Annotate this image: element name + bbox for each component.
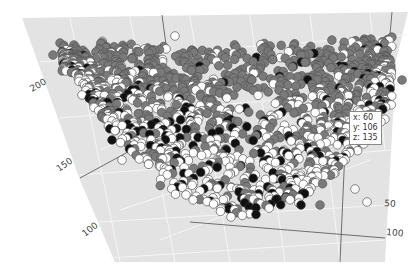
axis-tick-label: 150: [54, 155, 74, 173]
data-point[interactable]: [230, 55, 239, 64]
data-point[interactable]: [269, 175, 278, 184]
data-point[interactable]: [233, 83, 242, 92]
tooltip-z: z: 135: [353, 133, 378, 143]
data-point[interactable]: [176, 116, 185, 125]
data-point[interactable]: [209, 200, 218, 209]
axis-tick-label: 50: [384, 198, 397, 209]
data-point[interactable]: [328, 36, 337, 45]
data-point[interactable]: [189, 196, 198, 205]
data-point[interactable]: [171, 190, 180, 199]
data-point[interactable]: [363, 198, 372, 207]
tooltip-y: y: 106: [353, 123, 378, 133]
data-point[interactable]: [271, 99, 280, 108]
data-point[interactable]: [164, 93, 173, 102]
data-point[interactable]: [116, 138, 125, 147]
data-point[interactable]: [318, 180, 327, 189]
data-point[interactable]: [301, 58, 310, 67]
data-point[interactable]: [351, 185, 360, 194]
tooltip-x: x: 60: [353, 113, 378, 123]
data-point[interactable]: [155, 87, 164, 96]
data-point[interactable]: [235, 105, 244, 114]
data-point[interactable]: [398, 76, 407, 85]
data-point[interactable]: [223, 61, 232, 70]
data-point[interactable]: [254, 91, 263, 100]
data-point[interactable]: [219, 195, 228, 204]
data-point[interactable]: [316, 201, 325, 210]
data-point[interactable]: [287, 137, 296, 146]
data-point[interactable]: [156, 181, 165, 190]
data-point[interactable]: [252, 210, 261, 219]
data-point[interactable]: [271, 158, 280, 167]
data-point[interactable]: [144, 160, 153, 169]
data-point[interactable]: [297, 201, 306, 210]
data-point[interactable]: [133, 99, 142, 108]
data-point[interactable]: [333, 141, 342, 150]
data-point[interactable]: [182, 125, 191, 134]
data-point[interactable]: [118, 156, 127, 165]
data-point[interactable]: [337, 53, 346, 62]
data-point[interactable]: [213, 163, 222, 172]
data-point[interactable]: [196, 168, 205, 177]
data-point[interactable]: [290, 109, 299, 118]
data-point[interactable]: [227, 213, 236, 222]
axis-tick-label: 100: [80, 220, 100, 239]
data-point[interactable]: [249, 149, 258, 158]
hover-tooltip: x: 60 y: 106 z: 135: [349, 111, 382, 145]
data-point[interactable]: [215, 62, 224, 71]
data-point[interactable]: [216, 207, 225, 216]
data-point[interactable]: [244, 108, 253, 117]
data-point[interactable]: [135, 155, 144, 164]
data-point[interactable]: [238, 130, 247, 139]
data-point[interactable]: [284, 151, 293, 160]
data-point[interactable]: [223, 94, 232, 103]
data-point[interactable]: [264, 88, 273, 97]
data-point[interactable]: [288, 63, 297, 72]
axis-tick-label: 100: [386, 227, 404, 238]
data-point[interactable]: [171, 32, 180, 41]
data-point[interactable]: [319, 157, 328, 166]
data-point[interactable]: [197, 151, 206, 160]
data-point[interactable]: [265, 204, 274, 213]
data-point[interactable]: [187, 66, 196, 75]
data-point[interactable]: [49, 51, 58, 60]
data-point[interactable]: [268, 55, 277, 64]
data-point[interactable]: [277, 41, 286, 50]
data-point[interactable]: [108, 136, 117, 145]
data-point[interactable]: [213, 184, 222, 193]
data-point[interactable]: [249, 136, 258, 145]
data-point[interactable]: [111, 126, 120, 135]
data-point[interactable]: [249, 174, 258, 183]
data-point[interactable]: [188, 181, 197, 190]
data-point[interactable]: [276, 200, 285, 209]
data-point[interactable]: [238, 211, 247, 220]
data-point[interactable]: [283, 81, 292, 90]
data-point[interactable]: [286, 196, 295, 205]
data-point[interactable]: [203, 109, 212, 118]
